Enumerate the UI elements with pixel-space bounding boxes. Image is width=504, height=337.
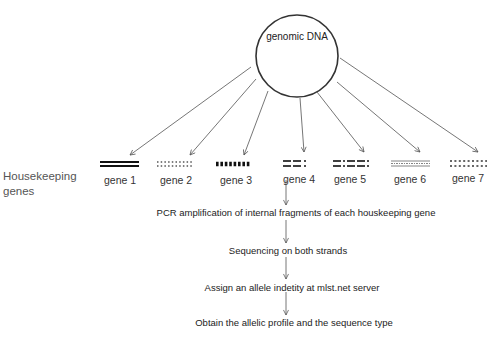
step-assign-allele: Assign an allele indetity at mlst.net se… <box>205 283 380 293</box>
step-sequencing: Sequencing on both strands <box>229 246 347 256</box>
genomic-dna-circle <box>256 15 338 97</box>
arrow-to-gene-1 <box>130 67 251 155</box>
gene-7-label: gene 7 <box>452 173 484 184</box>
housekeeping-label-line-2: genes <box>3 184 77 199</box>
gene-3-label: gene 3 <box>220 175 252 186</box>
arrow-to-gene-5 <box>317 92 364 152</box>
gene-7-symbol <box>450 161 487 166</box>
arrow-to-gene-4 <box>300 98 304 152</box>
gene-6-symbol <box>391 161 430 166</box>
arrow-to-gene-7 <box>340 58 478 152</box>
arrow-to-gene-2 <box>190 79 256 155</box>
gene-arrows <box>130 58 478 155</box>
genomic-dna-label: genomic DNA <box>266 32 328 42</box>
gene-5-symbol <box>333 161 369 166</box>
gene-1-label: gene 1 <box>104 175 136 186</box>
gene-1-symbol <box>100 162 139 166</box>
gene-5-label: gene 5 <box>334 174 366 185</box>
housekeeping-label-line-1: Housekeeping <box>3 169 77 184</box>
step-pcr-amplification: PCR amplification of internal fragments … <box>157 208 436 218</box>
gene-2-label: gene 2 <box>160 175 192 186</box>
arrow-to-gene-6 <box>337 82 420 152</box>
step-allelic-profile: Obtain the allelic profile and the seque… <box>195 318 393 328</box>
gene-4-symbol <box>283 161 306 166</box>
arrow-to-gene-3 <box>244 91 268 155</box>
gene-2-symbol <box>157 162 194 166</box>
gene-4-label: gene 4 <box>283 174 315 185</box>
gene-6-label: gene 6 <box>394 174 426 185</box>
housekeeping-genes-label: Housekeeping genes <box>3 169 77 199</box>
